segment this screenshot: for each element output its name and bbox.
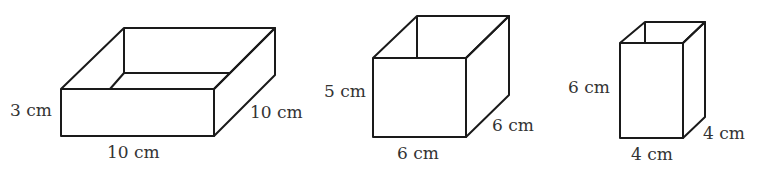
box-3-width-label: 4 cm xyxy=(631,144,673,164)
box-1-width-label: 10 cm xyxy=(107,142,160,162)
box-2-top-back-edge xyxy=(373,16,509,58)
box-1-top-back-edge xyxy=(61,28,275,89)
box-1-depth-label: 10 cm xyxy=(250,102,303,122)
box-2-height-label: 5 cm xyxy=(324,81,366,101)
box-2-width-label: 6 cm xyxy=(397,143,439,163)
box-1-inner-left-edge xyxy=(110,73,124,89)
box-1-front-face xyxy=(61,89,214,136)
box-1-height-label: 3 cm xyxy=(10,100,52,120)
box-2-depth-label: 6 cm xyxy=(492,115,534,135)
box-3-depth-label: 4 cm xyxy=(703,123,745,143)
box-1-inner-back-edge xyxy=(124,28,229,73)
open-boxes-diagram: 3 cm 10 cm 10 cm 5 cm 6 cm 6 cm 6 cm 4 c… xyxy=(0,0,767,175)
box-2: 5 cm 6 cm 6 cm xyxy=(324,16,534,163)
box-3-front-face xyxy=(620,43,683,138)
box-3: 6 cm 4 cm 4 cm xyxy=(568,22,745,164)
box-2-front-face xyxy=(373,58,466,137)
box-1: 3 cm 10 cm 10 cm xyxy=(10,28,303,162)
box-3-height-label: 6 cm xyxy=(568,77,610,97)
box-3-top-back-edge xyxy=(620,22,705,43)
